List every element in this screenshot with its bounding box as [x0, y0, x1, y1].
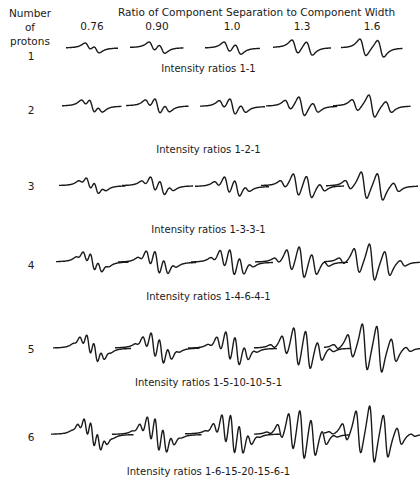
intensity-ratio-caption: Intensity ratios 1-3-3-1 — [0, 224, 417, 235]
spectrum-trace — [59, 176, 126, 195]
spectrum-trace — [324, 404, 420, 464]
spectrum-trace — [273, 38, 331, 57]
intensity-ratio-caption: Intensity ratios 1-1 — [0, 63, 417, 74]
spectrum-trace — [126, 97, 189, 115]
spectrum-trace — [118, 249, 196, 276]
column-label: 0.76 — [72, 20, 112, 32]
proton-count-label: 1 — [24, 50, 38, 62]
row-axis-label-line2: of protons — [6, 20, 54, 48]
row-axis-label-line1: Number — [6, 6, 54, 20]
spectrum-trace — [266, 95, 337, 117]
spectrum-trace — [205, 40, 260, 56]
proton-count-label: 2 — [24, 104, 38, 116]
spectrum-trace — [195, 175, 269, 198]
spectrum-trace — [341, 37, 403, 59]
intensity-ratio-caption: Intensity ratios 1-5-10-10-5-1 — [0, 377, 417, 388]
proton-count-label: 5 — [24, 343, 38, 355]
column-label: 1.3 — [282, 20, 322, 32]
spectrum-trace — [130, 40, 184, 55]
intensity-ratio-caption: Intensity ratios 1-6-15-20-15-6-1 — [0, 466, 417, 477]
spectrum-trace — [326, 170, 418, 202]
spectrum-trace — [324, 242, 420, 282]
spectrum-trace — [324, 322, 420, 374]
column-label: 1.0 — [212, 20, 252, 32]
proton-count-label: 4 — [24, 259, 38, 271]
intensity-ratio-caption: Intensity ratios 1-4-6-4-1 — [0, 291, 417, 302]
proton-count-label: 6 — [24, 431, 38, 443]
column-axis-title: Ratio of Component Separation to Compone… — [118, 6, 418, 18]
row-axis-label: Number of protons — [6, 6, 54, 48]
proton-count-label: 3 — [24, 180, 38, 192]
spectrum-trace — [122, 175, 193, 197]
column-label: 0.90 — [137, 20, 177, 32]
intensity-ratio-caption: Intensity ratios 1-2-1 — [0, 144, 417, 155]
spectrum-trace — [333, 93, 411, 119]
spectrum-trace — [66, 41, 118, 55]
column-label: 1.6 — [352, 20, 392, 32]
spectrum-trace — [200, 97, 265, 116]
spectrum-trace — [62, 98, 122, 114]
